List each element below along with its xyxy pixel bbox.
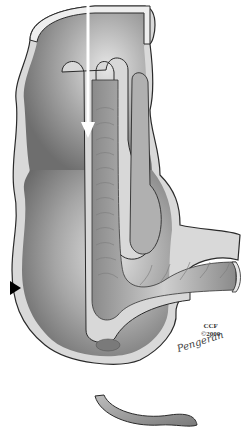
appendiceal-orifice <box>96 339 120 351</box>
appendix <box>95 395 197 426</box>
intussusception-illustration <box>0 0 248 430</box>
